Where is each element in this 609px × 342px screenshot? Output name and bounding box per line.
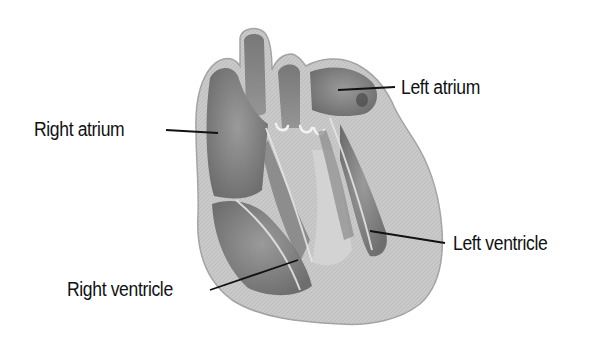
label-right-atrium: Right atrium	[34, 120, 124, 140]
label-right-ventricle: Right ventricle	[67, 280, 173, 300]
label-left-atrium: Left atrium	[401, 78, 480, 98]
label-left-ventricle: Left ventricle	[453, 234, 547, 254]
heart-diagram: Right atrium Left atrium Left ventricle …	[0, 0, 609, 342]
pulmonary-vein-opening	[356, 93, 368, 107]
